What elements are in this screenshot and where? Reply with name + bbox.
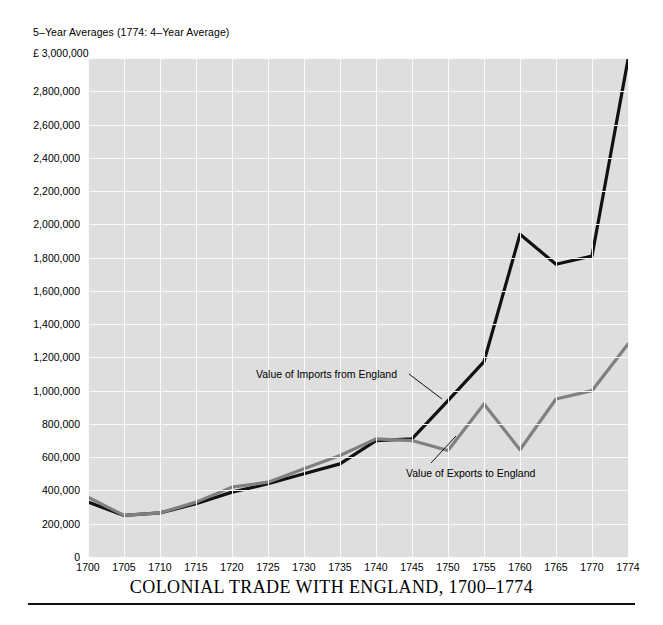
y-axis-tick-label: 1,600,000 (0, 285, 80, 297)
x-axis-tick-label: 1730 (292, 561, 315, 573)
y-axis-tick-label: 1,200,000 (0, 351, 80, 363)
y-axis-tick-label: 2,800,000 (0, 85, 80, 97)
x-axis-tick-label: 1755 (472, 561, 495, 573)
x-axis-tick-label: 1735 (328, 561, 351, 573)
y-axis-tick-label: 2,600,000 (0, 119, 80, 131)
y-axis-tick-label: 1,800,000 (0, 252, 80, 264)
y-axis-tick-label: 2,000,000 (0, 218, 80, 230)
y-axis-tick-label: 400,000 (0, 484, 80, 496)
x-axis-tick-label: 1750 (436, 561, 459, 573)
y-axis-tick-label: 800,000 (0, 418, 80, 430)
x-axis-tick-label: 1725 (256, 561, 279, 573)
x-axis-tick-label: 1700 (76, 561, 99, 573)
chart-figure: 5–Year Averages (1774: 4–Year Average) £… (0, 0, 663, 625)
x-axis-tick-label: 1770 (580, 561, 603, 573)
x-axis-tick-label: 1715 (184, 561, 207, 573)
y-axis-tick-label: 1,000,000 (0, 385, 80, 397)
x-axis-tick-label: 1705 (112, 561, 135, 573)
y-axis-tick-label: 600,000 (0, 451, 80, 463)
x-axis-tick-label: 1720 (220, 561, 243, 573)
x-axis-tick-label: 1745 (400, 561, 423, 573)
annotation-imports: Value of Imports from England (256, 368, 397, 380)
y-axis-tick-label: 2,200,000 (0, 185, 80, 197)
x-axis-tick-label: 1740 (364, 561, 387, 573)
y-axis-tick-label: 1,400,000 (0, 318, 80, 330)
x-axis-tick-label: 1710 (148, 561, 171, 573)
annotation-exports: Value of Exports to England (406, 467, 535, 479)
y-axis-tick-label: 2,400,000 (0, 152, 80, 164)
x-axis-tick-label: 1765 (544, 561, 567, 573)
y-axis-tick-label: 200,000 (0, 518, 80, 530)
bottom-rule (28, 603, 635, 605)
axis-labels-layer: 0200,000400,000600,000800,0001,000,0001,… (0, 0, 663, 625)
x-axis-tick-label: 1774 (616, 561, 639, 573)
y-axis-tick-label: 0 (0, 551, 80, 563)
chart-title: COLONIAL TRADE WITH ENGLAND, 1700–1774 (0, 577, 663, 598)
x-axis-tick-label: 1760 (508, 561, 531, 573)
